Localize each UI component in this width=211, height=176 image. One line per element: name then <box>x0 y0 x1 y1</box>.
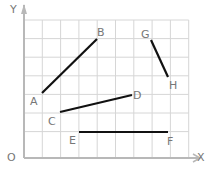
segment-CD <box>60 95 132 112</box>
segment-AB <box>42 39 97 93</box>
point-label-b: B <box>97 27 105 38</box>
coordinate-grid-diagram <box>0 0 211 176</box>
segment-GH <box>151 40 168 77</box>
y-axis-label: Y <box>10 4 17 15</box>
origin-label: O <box>7 152 16 163</box>
y-axis-arrow-icon <box>21 4 27 14</box>
point-label-c: C <box>48 116 56 127</box>
grid-lines <box>24 20 189 158</box>
point-label-g: G <box>141 29 150 40</box>
point-label-f: F <box>167 136 173 147</box>
point-label-d: D <box>133 90 141 101</box>
x-axis-label: X <box>197 152 205 163</box>
point-label-h: H <box>169 80 177 91</box>
point-label-e: E <box>69 135 76 146</box>
point-label-a: A <box>30 96 38 107</box>
